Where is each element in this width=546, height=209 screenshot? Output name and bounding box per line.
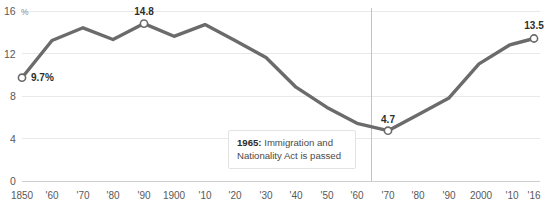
x-tick-1960: '60 [350, 190, 363, 201]
x-tick-1940: '40 [289, 190, 302, 201]
data-label-peak: 14.8 [134, 6, 154, 17]
y-axis-unit: % [21, 7, 29, 17]
data-point-markers [18, 20, 537, 134]
y-tick-4: 4 [10, 133, 16, 145]
marker-1850[interactable] [18, 74, 25, 81]
x-tick-1880: '80 [106, 190, 119, 201]
marker-1890[interactable] [140, 20, 147, 27]
x-tick-1930: '30 [259, 190, 272, 201]
y-tick-12: 12 [4, 48, 16, 60]
marker-1970[interactable] [384, 127, 391, 134]
y-tick-16: 16 [4, 5, 16, 17]
x-tick-1890: '90 [137, 190, 150, 201]
x-tick-2000: 2000 [470, 190, 493, 201]
marker-2016[interactable] [530, 35, 537, 42]
data-label-start: 9.7% [31, 72, 54, 83]
x-tick-1920: '20 [228, 190, 241, 201]
data-label-low: 4.7 [381, 114, 395, 125]
x-tick-1980: '80 [411, 190, 424, 201]
x-tick-1910: '10 [198, 190, 211, 201]
x-tick-1970: '70 [381, 190, 394, 201]
line-chart-svg: 16 % 12 8 4 0 9.7% 14.8 4.7 13.5 1850 '6… [0, 0, 546, 209]
x-tick-1990: '90 [442, 190, 455, 201]
x-tick-1850: 1850 [11, 190, 34, 201]
data-label-end: 13.5 [524, 20, 544, 31]
chart-container: 16 % 12 8 4 0 9.7% 14.8 4.7 13.5 1850 '6… [0, 0, 546, 209]
x-tick-1870: '70 [76, 190, 89, 201]
x-tick-1860: '60 [45, 190, 58, 201]
x-tick-1950: '50 [320, 190, 333, 201]
data-point-labels: 9.7% 14.8 4.7 13.5 [31, 6, 544, 125]
annotation-callout-1965: 1965: Immigration and Nationality Act is… [228, 130, 356, 169]
y-tick-0: 0 [10, 175, 16, 187]
x-axis-labels: 1850 '60 '70 '80 '90 1900 '10 '20 '30 '4… [11, 190, 541, 201]
x-tick-1900: 1900 [163, 190, 186, 201]
y-tick-8: 8 [10, 90, 16, 102]
x-tick-2010: '10 [505, 190, 518, 201]
series-line-foreign-born-share [22, 24, 534, 131]
x-tick-2016: '16 [527, 190, 540, 201]
annotation-year: 1965: [237, 137, 262, 148]
